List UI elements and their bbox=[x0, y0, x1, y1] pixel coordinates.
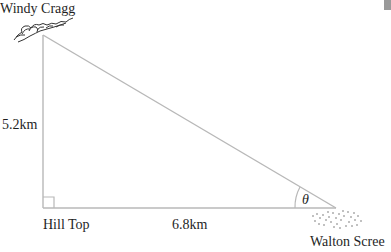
label-horizontal-side: 6.8km bbox=[172, 217, 207, 233]
angle-arc bbox=[295, 187, 300, 208]
scree-rocks-icon bbox=[312, 210, 361, 228]
label-angle-theta: θ bbox=[302, 192, 309, 208]
hypotenuse bbox=[43, 35, 336, 208]
label-windy-cragg: Windy Cragg bbox=[0, 1, 75, 17]
right-angle-marker bbox=[43, 197, 54, 208]
label-vertical-side: 5.2km bbox=[2, 117, 37, 133]
label-hill-top: Hill Top bbox=[43, 217, 90, 233]
triangle-diagram bbox=[0, 0, 391, 252]
label-walton-scree: Walton Scree bbox=[310, 234, 385, 250]
